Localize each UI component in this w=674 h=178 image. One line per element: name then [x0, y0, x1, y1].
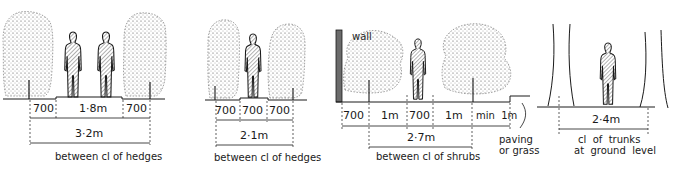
- dim-b: 1m: [381, 109, 399, 122]
- panel-hedges-wide: 700 1·8m 700 3·2m between cl of hedges: [3, 11, 166, 162]
- dim-overall: 3·2m: [75, 127, 103, 140]
- tree-trunk-left-icon: [548, 24, 574, 106]
- panel-trees: 2·4m cl of trunks at ground level: [537, 24, 668, 156]
- leader-icon: [520, 103, 526, 128]
- caption: between cl of hedges: [214, 152, 321, 163]
- person-icon: [65, 32, 82, 97]
- dim-a: 700: [343, 109, 364, 122]
- hedge-left-icon: [208, 20, 240, 100]
- dim-overall: 2·7m: [407, 131, 435, 144]
- dim-right: 700: [269, 104, 290, 117]
- caption-line-2: at ground level: [574, 145, 656, 156]
- shrub-left-icon: [344, 31, 403, 102]
- dim-middle: 1·8m: [79, 102, 107, 115]
- dim-overall: 2·4m: [592, 113, 620, 126]
- hedge-right-icon: [268, 24, 305, 100]
- caption-line-1: cl of trunks: [578, 134, 640, 145]
- dim-left: 700: [215, 104, 236, 117]
- dim-e: min 1m: [476, 110, 517, 121]
- hedge-right-icon: [124, 13, 167, 99]
- dim-middle: 700: [242, 104, 263, 117]
- tree-trunk-right-icon: [640, 30, 668, 108]
- planting-spacing-diagram: 700 1·8m 700 3·2m between cl of hedges 7…: [0, 0, 674, 178]
- dim-overall: 2·1m: [240, 129, 268, 142]
- shrub-right-icon: [442, 24, 511, 102]
- panel-hedges-narrow: 700 700 700 2·1m between cl of hedges: [205, 20, 321, 163]
- caption: between cl of hedges: [55, 151, 162, 162]
- person-icon: [600, 43, 616, 104]
- person-icon: [245, 34, 261, 97]
- dim-c: 700: [409, 109, 430, 122]
- person-icon: [98, 32, 115, 97]
- side-note-1: paving: [499, 134, 533, 145]
- caption: between cl of shrubs: [376, 151, 480, 162]
- person-icon: [410, 39, 425, 99]
- hedge-left-icon: [3, 11, 53, 99]
- dim-d: 1m: [445, 109, 463, 122]
- dim-right: 700: [126, 102, 147, 115]
- panel-shrubs-wall: wall 700 1m 700 1m min 1m 2·7m b: [336, 24, 539, 162]
- wall-icon: [336, 30, 342, 102]
- dim-left: 700: [33, 102, 54, 115]
- side-note-2: or grass: [499, 145, 539, 156]
